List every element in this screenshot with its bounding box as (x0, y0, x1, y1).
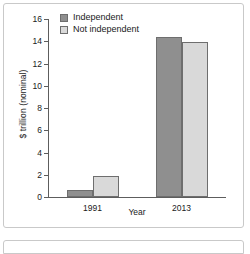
bar-1991-not-independent (93, 176, 119, 197)
legend-label-independent: Independent (73, 13, 123, 22)
legend-swatch-not-independent (60, 26, 68, 34)
y-tick: 4 (48, 153, 49, 154)
y-tick-mark (44, 130, 48, 131)
legend-swatch-independent (60, 14, 68, 22)
y-tick-mark (44, 86, 48, 87)
y-axis-title: $ trillion (nominal) (18, 39, 28, 169)
y-tick: 0 (48, 197, 49, 198)
y-tick-label: 2 (37, 170, 42, 180)
y-tick-mark (44, 175, 48, 176)
y-tick-label: 4 (37, 148, 42, 158)
next-chart-panel (3, 240, 244, 254)
y-tick: 12 (48, 64, 49, 65)
x-axis-line (48, 197, 226, 198)
chart-panel: $ trillion (nominal) 0246810121416 19912… (3, 3, 244, 228)
y-tick: 16 (48, 19, 49, 20)
bar-1991-independent (67, 190, 93, 197)
bar-chart-figure: $ trillion (nominal) 0246810121416 19912… (4, 4, 245, 229)
x-axis-title: Year (48, 207, 226, 217)
y-tick-label: 14 (33, 36, 42, 46)
bar-2013-independent (156, 37, 182, 197)
bar-2013-not-independent (182, 42, 208, 197)
y-tick-mark (44, 153, 48, 154)
plot-area: 0246810121416 19912013 (48, 19, 226, 197)
y-tick-label: 12 (33, 59, 42, 69)
legend-item-not-independent: Not independent (60, 25, 139, 34)
chart-legend: Independent Not independent (60, 13, 139, 34)
y-tick: 14 (48, 41, 49, 42)
y-tick-mark (44, 41, 48, 42)
legend-item-independent: Independent (60, 13, 139, 22)
y-tick-mark (44, 108, 48, 109)
y-tick-label: 0 (37, 192, 42, 202)
y-tick-label: 10 (33, 81, 42, 91)
y-tick-label: 8 (37, 103, 42, 113)
y-tick: 10 (48, 86, 49, 87)
y-tick: 8 (48, 108, 49, 109)
y-tick-label: 16 (33, 14, 42, 24)
legend-label-not-independent: Not independent (73, 25, 139, 34)
y-tick-mark (44, 197, 48, 198)
y-tick: 2 (48, 175, 49, 176)
y-tick-mark (44, 64, 48, 65)
y-tick-label: 6 (37, 125, 42, 135)
y-tick: 6 (48, 130, 49, 131)
y-tick-mark (44, 19, 48, 20)
